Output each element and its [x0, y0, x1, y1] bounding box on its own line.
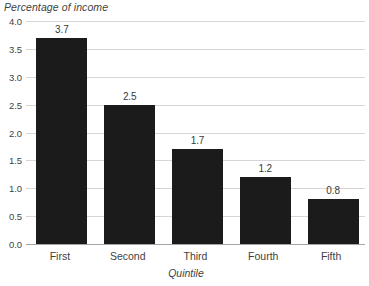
- x-axis-title: Quintile: [26, 267, 346, 279]
- y-axis-tick-label: 0.5: [0, 211, 22, 222]
- bar-slot: 0.8: [308, 21, 359, 244]
- y-axis-tick-label: 3.0: [0, 71, 22, 82]
- bar[interactable]: [172, 149, 223, 244]
- y-axis-tick-label: 1.5: [0, 155, 22, 166]
- bar-value-label: 3.7: [36, 24, 87, 35]
- bar-value-label: 1.7: [172, 135, 223, 146]
- bar-slot: 3.7: [36, 21, 87, 244]
- x-axis-tick-label: Fourth: [229, 250, 297, 262]
- bar[interactable]: [36, 38, 87, 244]
- x-axis-tick-label: First: [26, 250, 94, 262]
- bar-slot: 2.5: [104, 21, 155, 244]
- plot-area: 3.72.51.71.20.8: [26, 21, 365, 244]
- bar-value-label: 0.8: [308, 185, 359, 196]
- y-axis-title: Percentage of income: [4, 1, 108, 13]
- y-axis-tick-label: 3.5: [0, 43, 22, 54]
- x-axis-tick-label: Fifth: [297, 250, 365, 262]
- y-axis-tick-label: 2.5: [0, 99, 22, 110]
- y-axis-tick-label: 1.0: [0, 183, 22, 194]
- bar[interactable]: [240, 177, 291, 244]
- y-axis-tick-label: 0.0: [0, 239, 22, 250]
- bar-slot: 1.2: [240, 21, 291, 244]
- bar-chart: Percentage of income 3.72.51.71.20.8 0.0…: [0, 0, 369, 286]
- bar-value-label: 2.5: [104, 91, 155, 102]
- y-axis-tick-label: 2.0: [0, 127, 22, 138]
- bar[interactable]: [308, 199, 359, 244]
- x-axis-tick-label: Second: [94, 250, 162, 262]
- x-axis-tick-labels: FirstSecondThirdFourthFifth: [26, 250, 365, 266]
- bar-series: 3.72.51.71.20.8: [26, 21, 365, 244]
- x-axis-tick-label: Third: [162, 250, 230, 262]
- bar-value-label: 1.2: [240, 163, 291, 174]
- y-axis-tick-label: 4.0: [0, 16, 22, 27]
- bar-slot: 1.7: [172, 21, 223, 244]
- bar[interactable]: [104, 105, 155, 244]
